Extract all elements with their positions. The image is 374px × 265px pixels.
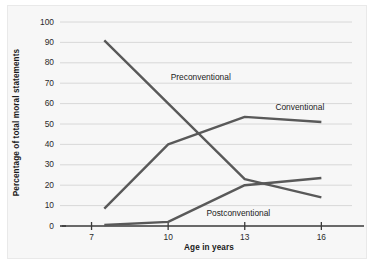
x-tick-label: 10 bbox=[156, 232, 180, 242]
y-tick-label: 60 bbox=[30, 98, 54, 108]
y-tick-label: 40 bbox=[30, 139, 54, 149]
y-tick-label: 50 bbox=[30, 119, 54, 129]
y-tick-label: 90 bbox=[30, 37, 54, 47]
y-tick-label: 100 bbox=[30, 17, 54, 27]
series-label-conventional: Conventional bbox=[275, 102, 324, 112]
line-chart-plot bbox=[0, 0, 374, 265]
series-label-preconventional: Preconventional bbox=[171, 72, 231, 82]
x-tick-label: 7 bbox=[80, 232, 104, 242]
y-tick-label: 30 bbox=[30, 159, 54, 169]
y-tick-label: 80 bbox=[30, 57, 54, 67]
y-axis-title: Percentage of total moral statements bbox=[12, 43, 21, 203]
y-tick-label: 10 bbox=[30, 200, 54, 210]
x-axis-title: Age in years bbox=[66, 243, 352, 252]
series-label-postconventional: Postconventional bbox=[206, 208, 270, 218]
chart-figure: Percentage of total moral statements Age… bbox=[0, 0, 374, 265]
y-tick-label: 0 bbox=[30, 221, 54, 231]
x-tick-label: 13 bbox=[233, 232, 257, 242]
series-line-conventional bbox=[104, 117, 321, 209]
y-tick-label: 20 bbox=[30, 180, 54, 190]
x-tick-label: 16 bbox=[309, 232, 333, 242]
y-tick-label: 70 bbox=[30, 78, 54, 88]
